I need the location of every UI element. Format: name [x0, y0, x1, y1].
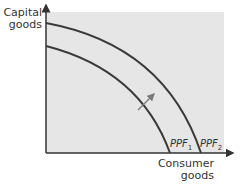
ppf2-label: PPF2	[200, 138, 222, 152]
ppf1-label: PPF1	[170, 138, 192, 152]
ppf1-curve	[46, 46, 170, 153]
x-axis-label: Consumer goods	[158, 158, 214, 182]
ppf2-curve	[46, 23, 201, 153]
y-axis-label: Capital goods	[3, 7, 42, 31]
